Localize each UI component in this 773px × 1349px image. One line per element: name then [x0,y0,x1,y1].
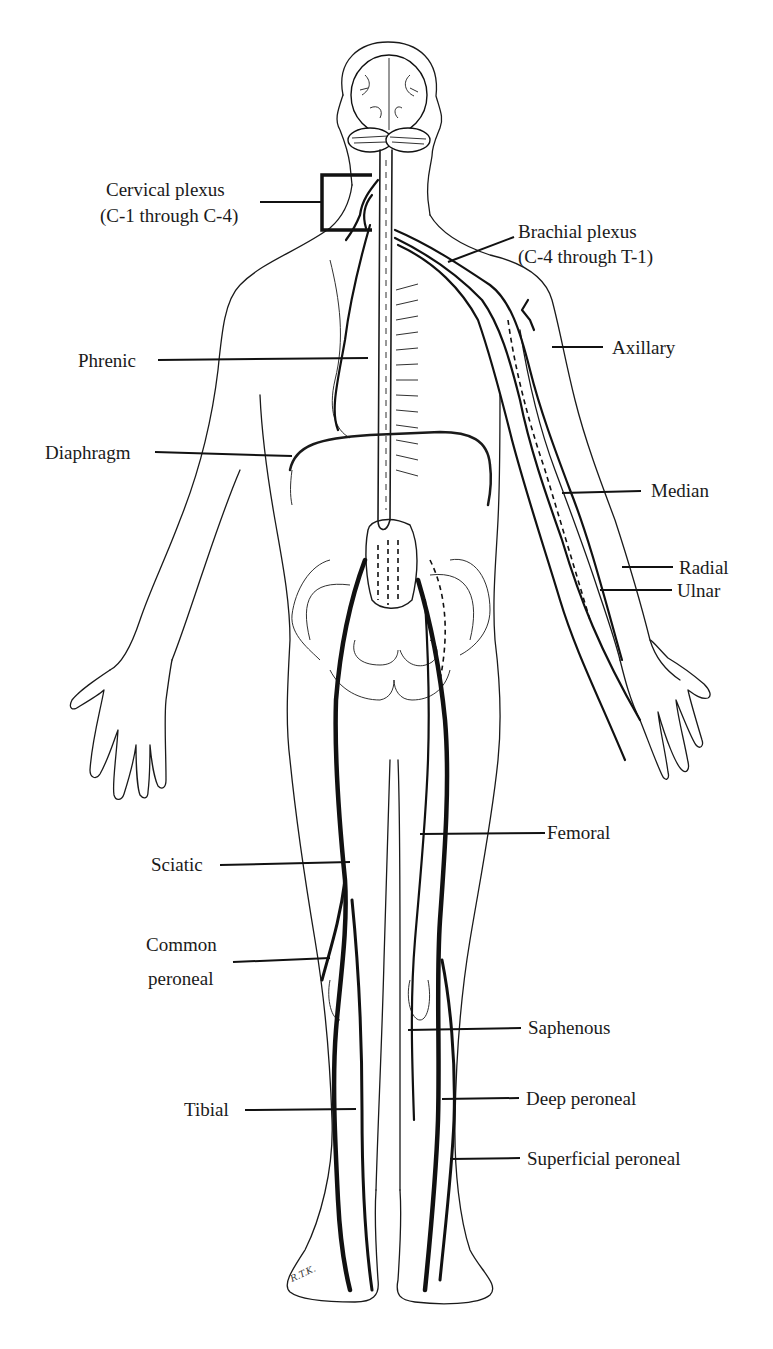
label-brachial-plexus-line1: Brachial plexus [518,221,637,242]
label-common-peroneal-line2: peroneal [148,968,213,989]
label-median: Median [651,480,710,501]
labels: Cervical plexus (C-1 through C-4) Brachi… [45,179,729,1284]
nervous-system-diagram: Cervical plexus (C-1 through C-4) Brachi… [0,0,773,1349]
label-tibial: Tibial [184,1099,229,1120]
label-cervical-plexus-line1: Cervical plexus [106,179,225,200]
label-diaphragm: Diaphragm [45,442,131,463]
label-ulnar: Ulnar [677,580,721,601]
label-axillary: Axillary [612,337,676,358]
artist-signature: R.T.K. [288,1263,318,1284]
brain [348,55,430,152]
label-phrenic: Phrenic [78,350,136,371]
label-brachial-plexus-line2: (C-4 through T-1) [518,246,653,268]
label-deep-peroneal: Deep peroneal [526,1088,636,1109]
label-radial: Radial [679,557,729,578]
spinal-cord [366,150,418,608]
label-saphenous: Saphenous [528,1017,610,1038]
label-common-peroneal-line1: Common [146,934,217,955]
leader-lines [155,202,673,1159]
label-femoral: Femoral [547,822,610,843]
label-superficial-peroneal: Superficial peroneal [527,1148,681,1169]
label-sciatic: Sciatic [151,854,203,875]
label-cervical-plexus-line2: (C-1 through C-4) [100,205,238,227]
